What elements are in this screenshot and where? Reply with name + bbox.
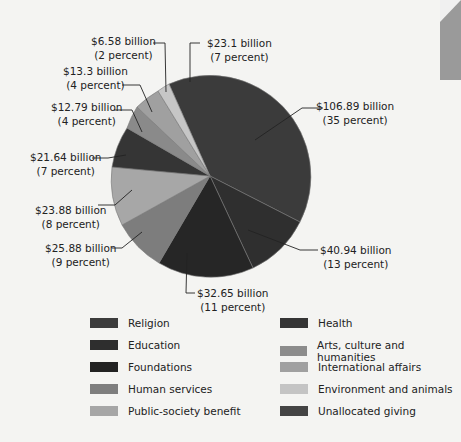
label-percent: (7 percent) xyxy=(30,164,102,178)
label-percent: (9 percent) xyxy=(45,255,117,269)
swatch xyxy=(90,318,118,328)
label-unallocated: $23.1 billion (7 percent) xyxy=(207,36,272,64)
swatch xyxy=(280,362,308,372)
swatch xyxy=(280,384,308,394)
swatch xyxy=(280,346,307,356)
label-percent: (8 percent) xyxy=(35,217,107,231)
label-percent: (35 percent) xyxy=(316,113,394,127)
swatch xyxy=(90,362,118,372)
label-amount: $13.3 billion xyxy=(63,64,128,78)
legend-label: Religion xyxy=(128,317,170,329)
label-foundations: $32.65 billion (11 percent) xyxy=(197,286,269,314)
label-health: $21.64 billion (7 percent) xyxy=(30,150,102,178)
label-environment: $6.58 billion (2 percent) xyxy=(91,34,156,62)
legend-health: Health xyxy=(280,317,352,329)
label-amount: $106.89 billion xyxy=(316,99,394,113)
label-percent: (11 percent) xyxy=(197,300,269,314)
legend-label: International affairs xyxy=(318,361,421,373)
legend-label: Unallocated giving xyxy=(318,405,416,417)
legend-label: Health xyxy=(318,317,352,329)
label-amount: $6.58 billion xyxy=(91,34,156,48)
label-arts: $12.79 billion (4 percent) xyxy=(51,100,123,128)
swatch xyxy=(90,340,118,350)
label-percent: (2 percent) xyxy=(91,48,156,62)
label-human-services: $25.88 billion (9 percent) xyxy=(45,241,117,269)
swatch xyxy=(280,318,308,328)
label-percent: (13 percent) xyxy=(320,257,392,271)
legend-unallocated: Unallocated giving xyxy=(280,405,416,417)
legend-international: International affairs xyxy=(280,361,421,373)
label-percent: (4 percent) xyxy=(51,114,123,128)
legend-foundations: Foundations xyxy=(90,361,192,373)
label-education: $40.94 billion (13 percent) xyxy=(320,243,392,271)
label-amount: $21.64 billion xyxy=(30,150,102,164)
swatch xyxy=(90,384,118,394)
label-amount: $23.88 billion xyxy=(35,203,107,217)
legend-education: Education xyxy=(90,339,180,351)
legend-human-services: Human services xyxy=(90,383,212,395)
label-amount: $40.94 billion xyxy=(320,243,392,257)
swatch xyxy=(90,406,118,416)
legend-public-society: Public-society benefit xyxy=(90,405,241,417)
legend-label: Human services xyxy=(128,383,212,395)
legend-environment: Environment and animals xyxy=(280,383,453,395)
legend-label: Foundations xyxy=(128,361,192,373)
label-international: $13.3 billion (4 percent) xyxy=(63,64,128,92)
legend-label: Public-society benefit xyxy=(128,405,241,417)
label-amount: $32.65 billion xyxy=(197,286,269,300)
label-religion: $106.89 billion (35 percent) xyxy=(316,99,394,127)
swatch xyxy=(280,406,308,416)
label-percent: (7 percent) xyxy=(207,50,272,64)
legend-arts: Arts, culture and humanities xyxy=(280,339,461,363)
label-percent: (4 percent) xyxy=(63,78,128,92)
legend-religion: Religion xyxy=(90,317,170,329)
legend-label: Arts, culture and humanities xyxy=(317,339,461,363)
legend-label: Environment and animals xyxy=(318,383,453,395)
label-amount: $12.79 billion xyxy=(51,100,123,114)
label-public-society: $23.88 billion (8 percent) xyxy=(35,203,107,231)
label-amount: $23.1 billion xyxy=(207,36,272,50)
legend-label: Education xyxy=(128,339,180,351)
label-amount: $25.88 billion xyxy=(45,241,117,255)
